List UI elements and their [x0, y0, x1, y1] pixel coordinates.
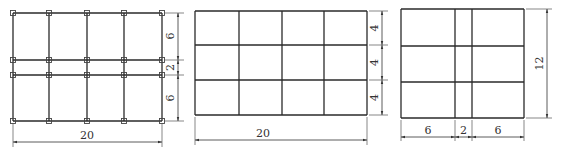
figure-c: 6 2 6 12: [401, 9, 552, 141]
figure-c-width-label-3: 6: [495, 124, 502, 137]
diagram-canvas: 20 6 2 6: [0, 0, 562, 156]
figure-c-height-dimension: 12: [526, 9, 552, 118]
figure-a-width-dimension: 20: [13, 124, 162, 147]
figure-a-width-label: 20: [80, 129, 94, 142]
figure-a-height-dimensions: 6 2 6: [164, 13, 184, 121]
figure-a-grid: [13, 13, 162, 121]
figure-b-height-label-3: 4: [368, 94, 381, 101]
figure-a-height-label-1: 6: [164, 33, 177, 40]
figure-b-height-dimensions: 4 4 4: [368, 11, 388, 115]
figure-b-grid: [195, 11, 367, 115]
figure-b: 20 4 4 4: [195, 11, 388, 145]
figure-b-width-label: 20: [256, 127, 270, 140]
figure-b-width-dimension: 20: [195, 117, 367, 145]
figure-b-height-label-1: 4: [368, 25, 381, 32]
figure-c-height-label: 12: [533, 57, 546, 71]
figure-c-width-dimensions: 6 2 6: [401, 120, 524, 141]
figure-a-height-label-3: 6: [164, 95, 177, 102]
figure-c-width-label-1: 6: [425, 124, 432, 137]
figure-a: 20 6 2 6: [11, 11, 185, 148]
figure-b-height-label-2: 4: [368, 59, 381, 66]
figure-a-height-label-2: 2: [164, 64, 177, 71]
figure-c-grid: [401, 9, 524, 118]
figure-c-width-label-2: 2: [460, 124, 467, 137]
